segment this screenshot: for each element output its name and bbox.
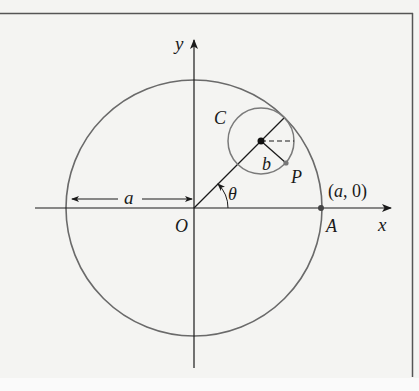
- y-axis-label: y: [173, 33, 184, 54]
- diagram-svg: y x O a θ C b P A (a, 0): [0, 0, 419, 391]
- x-axis-label: x: [377, 214, 387, 235]
- circle-c-label: C: [214, 108, 227, 128]
- point-a-coordinates: (a, 0): [328, 181, 367, 202]
- point-a-label: A: [325, 216, 338, 236]
- diagram-canvas: y x O a θ C b P A (a, 0): [0, 0, 419, 391]
- angle-theta-label: θ: [228, 184, 237, 204]
- radius-b-label: b: [262, 154, 271, 174]
- point-p-label: P: [290, 167, 302, 187]
- origin-label: O: [175, 216, 188, 236]
- frame-bottom-strip: [0, 378, 419, 391]
- rolling-circle-center: [258, 138, 265, 145]
- point-p-marker: [283, 160, 288, 165]
- radius-a-label: a: [124, 187, 134, 208]
- theta-arc: [218, 184, 228, 208]
- point-a-marker: [318, 205, 324, 211]
